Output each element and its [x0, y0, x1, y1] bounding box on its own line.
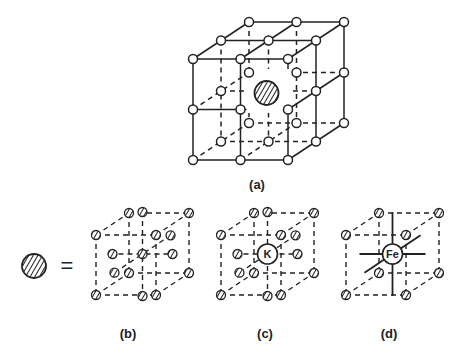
lattice-node [340, 119, 349, 128]
cube-edge [156, 273, 189, 295]
lattice-node [292, 68, 301, 77]
central-hatched-sphere [255, 81, 279, 105]
face-atom [235, 268, 244, 277]
legend-equals: = [61, 253, 74, 278]
face-atom [138, 208, 147, 217]
face-atom [110, 268, 119, 277]
corner-atom [402, 291, 411, 300]
face-atom [233, 250, 242, 259]
corner-atom [92, 291, 101, 300]
lattice-node [189, 156, 198, 165]
lattice-node [217, 87, 226, 96]
lattice-node [245, 119, 254, 128]
cube-edge [346, 273, 379, 295]
corner-atom [402, 231, 411, 240]
corner-atom [277, 231, 286, 240]
lattice-node [340, 68, 349, 77]
corner-atom [342, 291, 351, 300]
legend-hatched-sphere-icon [22, 254, 46, 278]
corner-atom [310, 209, 319, 218]
lattice-node [217, 137, 226, 146]
corner-atom [435, 269, 444, 278]
cube-edge [96, 213, 129, 235]
corner-atom [217, 231, 226, 240]
lattice-node [189, 105, 198, 114]
corner-atom [125, 209, 134, 218]
lattice-node [312, 137, 321, 146]
corner-atom [435, 209, 444, 218]
corner-atom [185, 209, 194, 218]
cube-edge [406, 273, 439, 295]
center-atom [138, 250, 147, 259]
lattice-node [189, 55, 198, 64]
corner-atom [250, 269, 259, 278]
lattice-node [245, 18, 254, 27]
corner-atom [125, 269, 134, 278]
lattice-figure: K Fe = (a) (b) (c) (d) [0, 0, 465, 354]
lattice-node [217, 36, 226, 45]
corner-atom [277, 291, 286, 300]
corner-atom [185, 269, 194, 278]
panel-c-cube: K [217, 208, 319, 301]
face-atom [263, 208, 272, 217]
corner-atom [342, 231, 351, 240]
corner-atom [217, 291, 226, 300]
lattice-node [284, 55, 293, 64]
panel-d-cube: Fe [342, 209, 444, 300]
corner-atom [152, 291, 161, 300]
face-atom [138, 292, 147, 301]
corner-atom [375, 269, 384, 278]
lattice-node [245, 68, 254, 77]
lattice-node [292, 18, 301, 27]
lattice-node [236, 105, 245, 114]
lattice-node [312, 36, 321, 45]
cube-edge [406, 213, 439, 235]
corner-atom [152, 231, 161, 240]
panel-a-cube-lattice [189, 18, 349, 165]
corner-atom [375, 209, 384, 218]
corner-atom [310, 269, 319, 278]
corner-atom [250, 209, 259, 218]
center-ion-label: K [264, 248, 272, 260]
lattice-node [292, 119, 301, 128]
face-atom [293, 250, 302, 259]
panel-b-cube [92, 208, 194, 301]
corner-atom [92, 231, 101, 240]
face-atom [168, 250, 177, 259]
cube-edge [346, 213, 379, 235]
lattice-node [236, 156, 245, 165]
lattice-node [284, 156, 293, 165]
panel-label-c: (c) [257, 326, 273, 341]
face-atom [291, 231, 300, 240]
lattice-node [236, 55, 245, 64]
lattice-node [284, 105, 293, 114]
face-atom [108, 250, 117, 259]
face-atom [166, 231, 175, 240]
center-ion-label: Fe [386, 248, 399, 260]
panel-label-b: (b) [120, 326, 137, 341]
face-atom [263, 292, 272, 301]
panel-label-d: (d) [381, 326, 398, 341]
lattice-node [264, 137, 273, 146]
cube-edge [221, 213, 254, 235]
lattice-node [264, 36, 273, 45]
lattice-node [340, 18, 349, 27]
lattice-node [312, 87, 321, 96]
panel-label-a: (a) [249, 177, 265, 192]
cube-edge [281, 273, 314, 295]
